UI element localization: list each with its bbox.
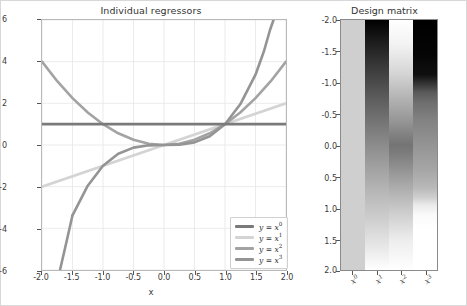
- left-chart-title: Individual regressors: [1, 5, 301, 16]
- right-ytick-label: 0.0: [303, 142, 337, 151]
- left-ytick-label: 2: [0, 99, 7, 108]
- design-matrix-column-x0: [341, 20, 365, 270]
- figure-canvas: Individual regressors 6 4 2 0 -2 -4 -6: [0, 0, 467, 306]
- left-ytick-label: -2: [0, 183, 7, 192]
- design-matrix-heatmap: [340, 19, 438, 271]
- left-ytick-label: 4: [0, 57, 7, 66]
- individual-regressors-panel: Individual regressors 6 4 2 0 -2 -4 -6: [1, 1, 301, 306]
- right-ytick-label: 0.5: [303, 173, 337, 182]
- right-ytick-label: -0.5: [303, 110, 337, 119]
- curve-x3-tail: [60, 215, 73, 270]
- design-matrix-column-x1: [365, 20, 389, 270]
- right-xtick-label-x2: x2: [398, 273, 410, 286]
- legend-swatch-x1: [235, 236, 254, 239]
- legend-item-x0[interactable]: y = x0: [235, 221, 282, 232]
- left-xaxis-label: x: [1, 287, 301, 297]
- right-xtick-label-x0: x0: [349, 273, 361, 286]
- right-chart-title: Design matrix: [301, 5, 467, 16]
- left-ytick-label: -6: [0, 267, 7, 276]
- right-ytick-label: 2.0: [303, 266, 337, 275]
- legend-item-x2[interactable]: y = x2: [235, 243, 282, 254]
- right-ytick-label: 1.0: [303, 205, 337, 214]
- legend-swatch-x2: [235, 247, 254, 250]
- legend-swatch-x0: [235, 225, 254, 228]
- design-matrix-column-x3: [413, 20, 437, 270]
- legend-label-x0: y = x0: [259, 221, 282, 232]
- right-ytick-label: -1.5: [303, 47, 337, 56]
- left-ytick-label: 6: [0, 15, 7, 24]
- legend-label-x3: y = x3: [259, 254, 282, 265]
- right-ytick-label: -2.0: [303, 16, 337, 25]
- legend-item-x3[interactable]: y = x3: [235, 254, 282, 265]
- left-ytick-label: -4: [0, 225, 7, 234]
- right-xtick-label-x3: x3: [422, 273, 434, 286]
- design-matrix-column-x2: [389, 20, 413, 270]
- right-ytick-label: -1.0: [303, 79, 337, 88]
- legend-label-x1: y = x1: [259, 232, 282, 243]
- legend-item-x1[interactable]: y = x1: [235, 232, 282, 243]
- right-ytick-label: 1.5: [303, 236, 337, 245]
- legend-label-x2: y = x2: [259, 243, 282, 254]
- right-xtick-label-x1: x1: [373, 273, 385, 286]
- design-matrix-panel: Design matrix -2.0 -1.5 -1.0 -0.5 0.0 0.…: [301, 1, 467, 306]
- legend-swatch-x3: [235, 258, 254, 261]
- left-ytick-label: 0: [0, 141, 7, 150]
- legend[interactable]: y = x0 y = x1 y = x2 y = x3: [230, 217, 288, 269]
